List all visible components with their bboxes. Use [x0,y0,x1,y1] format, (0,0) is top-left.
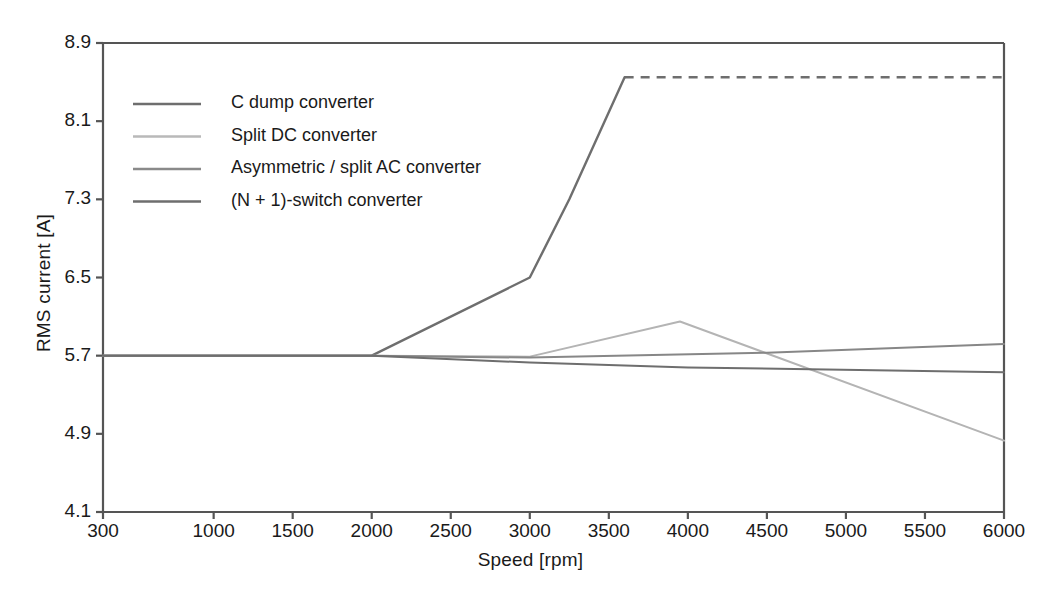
x-tick-label: 300 [68,520,138,542]
x-tick-label: 2500 [416,520,486,542]
x-axis-title: Speed [rpm] [0,549,1061,571]
legend-swatches [133,104,201,202]
x-tick-label: 4500 [732,520,802,542]
x-tick-label: 2000 [337,520,407,542]
x-tick-label: 1500 [258,520,328,542]
tick-marks [96,43,1004,519]
legend-label: Asymmetric / split AC converter [231,157,481,178]
y-tick-label: 4.9 [31,422,91,444]
y-tick-label: 8.9 [31,31,91,53]
x-tick-label: 1000 [179,520,249,542]
x-tick-label: 4000 [653,520,723,542]
legend-label: (N + 1)-switch converter [231,190,423,211]
axis-frame [103,43,1004,512]
plot-canvas [0,0,1061,598]
x-tick-label: 6000 [969,520,1039,542]
y-tick-label: 4.1 [31,500,91,522]
y-tick-label: 8.1 [31,109,91,131]
x-tick-label: 5000 [811,520,881,542]
x-tick-label: 3000 [495,520,565,542]
legend-label: C dump converter [231,92,374,113]
legend-label: Split DC converter [231,125,377,146]
chart-figure: 4.14.95.76.57.38.18.93001000150020002500… [0,0,1061,598]
y-axis-title: RMS current [A] [33,163,55,403]
x-tick-label: 3500 [574,520,644,542]
x-tick-label: 5500 [890,520,960,542]
